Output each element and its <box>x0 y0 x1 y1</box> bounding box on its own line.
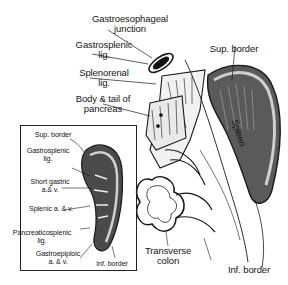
label-gastrosplenic-lig: Gastrosplenic lig. <box>64 40 144 60</box>
label-transverse-colon: Transverse colon <box>138 246 198 266</box>
inset-label-short-gastric: Short gastric a.& v. <box>22 178 78 194</box>
label-line: lig. <box>64 78 144 88</box>
inset-label-pancreaticosplenic-lig: Pancreaticosplenic lig. <box>6 229 78 245</box>
transverse-colon <box>137 177 184 231</box>
label-line: colon <box>138 256 198 266</box>
inset-label-gastrosplenic-lig: Gastrosplenic lig. <box>20 147 76 163</box>
label-line: a. & v. <box>28 258 88 266</box>
label-line: lig. <box>20 155 76 163</box>
inset-label-sup-border: Sup. border <box>28 131 78 139</box>
label-inf-border: Inf. border <box>216 265 282 275</box>
label-body-tail-pancreas: Body & tail of pancreas <box>60 94 146 114</box>
inset-label-gastroepiploic: Gastroepiploic a. & v. <box>28 250 88 266</box>
label-splenorenal-lig: Splenorenal lig. <box>64 68 144 88</box>
inset-label-inf-border: Inf. border <box>90 260 134 268</box>
label-line: a.& v. <box>22 186 78 194</box>
label-line: lig. <box>6 237 78 245</box>
label-sup-border: Sup. border <box>194 44 274 54</box>
inset-label-splenic-av: Splenic a. & v. <box>22 205 80 213</box>
label-line: lig. <box>64 50 144 60</box>
label-gastroesophageal-junction: Gastroesophageal junction <box>72 14 188 34</box>
label-line: junction <box>72 24 188 34</box>
label-line: pancreas <box>60 104 146 114</box>
